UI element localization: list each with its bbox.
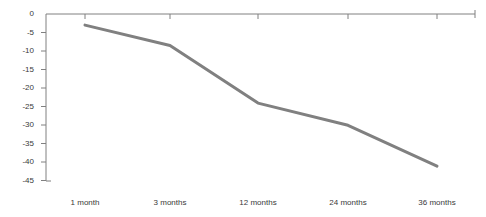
x-tick-label-3-months: 3 months — [135, 198, 205, 207]
line-chart: 0 -5 -10 -15 -20 -25 -30 -35 -40 -45 1 m… — [0, 0, 486, 217]
x-tick-label-1-month: 1 month — [50, 198, 120, 207]
data-series-line — [85, 25, 437, 166]
y-tick-label-2: -10 — [0, 47, 34, 55]
x-axis-ticks — [85, 14, 437, 19]
y-tick-label-7: -35 — [0, 140, 34, 148]
y-tick-label-4: -20 — [0, 84, 34, 92]
x-tick-label-12-months: 12 months — [223, 198, 293, 207]
x-tick-label-36-months: 36 months — [402, 198, 472, 207]
y-axis-ticks — [41, 33, 46, 181]
y-tick-label-6: -30 — [0, 121, 34, 129]
x-tick-label-24-months: 24 months — [313, 198, 383, 207]
y-tick-label-5: -25 — [0, 103, 34, 111]
chart-plot-area — [0, 0, 486, 217]
y-tick-label-0: 0 — [0, 10, 34, 18]
y-tick-label-1: -5 — [0, 29, 34, 37]
y-tick-label-3: -15 — [0, 66, 34, 74]
y-tick-label-8: -40 — [0, 158, 34, 166]
y-tick-label-9: -45 — [0, 177, 34, 185]
